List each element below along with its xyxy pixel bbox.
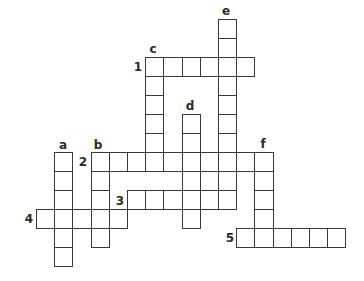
crossword-cell[interactable]: [145, 114, 164, 134]
crossword-cell[interactable]: [182, 190, 201, 210]
crossword-cell[interactable]: [327, 228, 346, 248]
crossword-cell[interactable]: [254, 171, 273, 191]
crossword-cell[interactable]: [91, 228, 110, 248]
crossword-cell[interactable]: [145, 57, 164, 77]
crossword-cell[interactable]: [72, 209, 91, 229]
crossword-cell[interactable]: [218, 190, 237, 210]
crossword-cell[interactable]: [54, 171, 73, 191]
crossword-cell[interactable]: [254, 209, 273, 229]
crossword-cell[interactable]: [200, 152, 219, 172]
crossword-cell[interactable]: [145, 76, 164, 96]
crossword-cell[interactable]: [109, 209, 128, 229]
crossword-cell[interactable]: [218, 114, 237, 134]
crossword-cell[interactable]: [218, 19, 237, 39]
crossword-cell[interactable]: [218, 76, 237, 96]
clue-label-2: 2: [79, 156, 87, 168]
clue-label-1: 1: [134, 61, 142, 73]
crossword-cell[interactable]: [54, 190, 73, 210]
crossword-cell[interactable]: [254, 228, 273, 248]
crossword-cell[interactable]: [182, 171, 201, 191]
crossword-cell[interactable]: [218, 38, 237, 58]
crossword-cell[interactable]: [182, 209, 201, 229]
crossword-cell[interactable]: [291, 228, 310, 248]
crossword-cell[interactable]: [273, 228, 292, 248]
clue-label-b: b: [94, 139, 103, 151]
crossword-cell[interactable]: [127, 152, 146, 172]
crossword-cell[interactable]: [163, 57, 182, 77]
crossword-cell[interactable]: [182, 152, 201, 172]
crossword-cell[interactable]: [91, 171, 110, 191]
crossword-cell[interactable]: [218, 57, 237, 77]
crossword-cell[interactable]: [54, 209, 73, 229]
crossword-cell[interactable]: [54, 152, 73, 172]
crossword-cell[interactable]: [200, 57, 219, 77]
crossword-cell[interactable]: [200, 190, 219, 210]
crossword-cell[interactable]: [145, 95, 164, 115]
crossword-cell[interactable]: [218, 171, 237, 191]
crossword-cell[interactable]: [145, 133, 164, 153]
crossword-cell[interactable]: [254, 190, 273, 210]
crossword-cell[interactable]: [91, 190, 110, 210]
clue-label-e: e: [222, 5, 230, 17]
crossword-cell[interactable]: [109, 152, 128, 172]
crossword-cell[interactable]: [36, 209, 55, 229]
clue-label-f: f: [260, 138, 265, 150]
crossword-cell[interactable]: [182, 57, 201, 77]
crossword-cell[interactable]: [182, 114, 201, 134]
clue-label-c: c: [149, 43, 156, 55]
crossword-cell[interactable]: [127, 190, 146, 210]
clue-label-4: 4: [25, 213, 33, 225]
crossword-cell[interactable]: [91, 209, 110, 229]
crossword-cell[interactable]: [54, 228, 73, 248]
clue-label-5: 5: [226, 232, 234, 244]
crossword-cell[interactable]: [218, 95, 237, 115]
crossword-cell[interactable]: [163, 190, 182, 210]
crossword-cell[interactable]: [236, 228, 255, 248]
crossword-cell[interactable]: [54, 247, 73, 267]
clue-label-3: 3: [116, 195, 124, 207]
crossword-cell[interactable]: [163, 152, 182, 172]
crossword-cell[interactable]: [145, 152, 164, 172]
crossword-cell[interactable]: [254, 152, 273, 172]
crossword-cell[interactable]: [309, 228, 328, 248]
crossword-grid: 12345abcdef: [0, 0, 364, 281]
crossword-cell[interactable]: [145, 190, 164, 210]
clue-label-d: d: [186, 100, 195, 112]
crossword-cell[interactable]: [218, 133, 237, 153]
crossword-cell[interactable]: [236, 57, 255, 77]
crossword-cell[interactable]: [236, 152, 255, 172]
crossword-cell[interactable]: [218, 152, 237, 172]
crossword-cell[interactable]: [182, 133, 201, 153]
crossword-cell[interactable]: [91, 152, 110, 172]
clue-label-a: a: [59, 139, 67, 151]
